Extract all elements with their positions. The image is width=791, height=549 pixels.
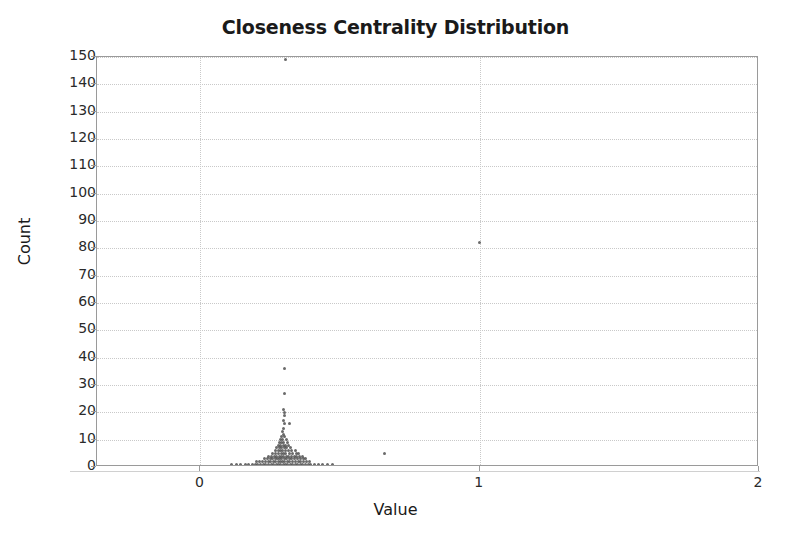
x-tick-label-2: 2 bbox=[728, 474, 788, 490]
y-tick-mark-130 bbox=[91, 111, 96, 112]
gridline-x-1 bbox=[480, 57, 481, 465]
gridline-y-30 bbox=[97, 385, 757, 386]
data-point bbox=[283, 422, 286, 425]
gridline-y-80 bbox=[97, 248, 757, 249]
data-point bbox=[247, 463, 250, 466]
y-tick-mark-120 bbox=[91, 138, 96, 139]
y-tick-mark-70 bbox=[91, 275, 96, 276]
y-tick-label-10: 10 bbox=[44, 430, 96, 446]
y-tick-mark-40 bbox=[91, 357, 96, 358]
data-point bbox=[284, 58, 287, 61]
y-tick-label-50: 50 bbox=[44, 320, 96, 336]
gridline-y-150 bbox=[97, 57, 757, 58]
data-point bbox=[331, 463, 334, 466]
data-point bbox=[478, 241, 481, 244]
gridline-y-90 bbox=[97, 221, 757, 222]
gridline-y-20 bbox=[97, 412, 757, 413]
x-tick-label-1: 1 bbox=[449, 474, 509, 490]
y-tick-label-90: 90 bbox=[44, 211, 96, 227]
data-point bbox=[383, 452, 386, 455]
gridline-y-70 bbox=[97, 276, 757, 277]
y-tick-mark-0 bbox=[91, 466, 96, 467]
y-tick-mark-80 bbox=[91, 247, 96, 248]
data-point bbox=[283, 392, 286, 395]
chart-title: Closeness Centrality Distribution bbox=[0, 16, 791, 38]
y-tick-label-60: 60 bbox=[44, 293, 96, 309]
gridline-y-130 bbox=[97, 112, 757, 113]
gridline-x-0 bbox=[200, 57, 201, 465]
gridline-y-40 bbox=[97, 358, 757, 359]
y-tick-label-80: 80 bbox=[44, 238, 96, 254]
y-tick-mark-90 bbox=[91, 220, 96, 221]
data-point bbox=[313, 463, 316, 466]
y-tick-label-140: 140 bbox=[44, 74, 96, 90]
y-tick-label-120: 120 bbox=[44, 129, 96, 145]
gridline-y-100 bbox=[97, 194, 757, 195]
data-point bbox=[321, 463, 324, 466]
y-tick-mark-140 bbox=[91, 83, 96, 84]
gridline-y-10 bbox=[97, 440, 757, 441]
x-axis-line bbox=[70, 471, 760, 472]
gridline-y-60 bbox=[97, 303, 757, 304]
data-point bbox=[326, 463, 329, 466]
gridline-y-120 bbox=[97, 139, 757, 140]
data-point bbox=[283, 367, 286, 370]
y-tick-mark-20 bbox=[91, 411, 96, 412]
chart-container: Closeness Centrality Distribution 010203… bbox=[0, 0, 791, 549]
data-point bbox=[283, 414, 286, 417]
y-tick-label-130: 130 bbox=[44, 102, 96, 118]
plot-area bbox=[96, 56, 758, 466]
x-tick-mark-0 bbox=[199, 466, 200, 471]
data-point bbox=[230, 463, 233, 466]
x-tick-mark-2 bbox=[758, 466, 759, 471]
y-tick-mark-50 bbox=[91, 329, 96, 330]
y-tick-label-150: 150 bbox=[44, 47, 96, 63]
gridline-y-50 bbox=[97, 330, 757, 331]
y-axis-title: Count bbox=[15, 182, 34, 302]
x-tick-label-0: 0 bbox=[169, 474, 229, 490]
y-tick-mark-60 bbox=[91, 302, 96, 303]
data-point bbox=[288, 422, 291, 425]
y-tick-label-30: 30 bbox=[44, 375, 96, 391]
y-tick-label-110: 110 bbox=[44, 156, 96, 172]
y-tick-label-40: 40 bbox=[44, 348, 96, 364]
y-tick-mark-100 bbox=[91, 193, 96, 194]
data-point bbox=[235, 463, 238, 466]
data-point bbox=[239, 463, 242, 466]
y-axis: 0102030405060708090100110120130140150 Co… bbox=[0, 0, 96, 549]
data-point bbox=[317, 463, 320, 466]
x-axis-title: Value bbox=[0, 500, 791, 519]
gridline-y-140 bbox=[97, 84, 757, 85]
y-tick-label-70: 70 bbox=[44, 266, 96, 282]
y-tick-mark-110 bbox=[91, 165, 96, 166]
data-point bbox=[244, 463, 247, 466]
y-tick-mark-150 bbox=[91, 56, 96, 57]
x-tick-mark-1 bbox=[479, 466, 480, 471]
y-tick-label-100: 100 bbox=[44, 184, 96, 200]
y-tick-label-20: 20 bbox=[44, 402, 96, 418]
y-tick-mark-10 bbox=[91, 439, 96, 440]
y-tick-mark-30 bbox=[91, 384, 96, 385]
gridline-y-110 bbox=[97, 166, 757, 167]
